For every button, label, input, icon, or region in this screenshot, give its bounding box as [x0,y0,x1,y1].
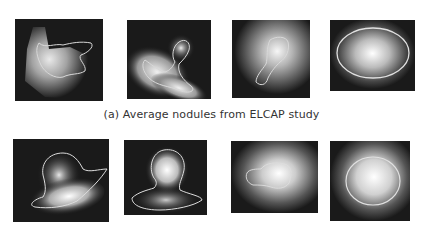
nodule-image-b3 [231,141,318,213]
nodule-image-a1 [15,19,103,101]
nodule-image-a3 [232,20,310,98]
nodule-b2-graphic [124,140,207,215]
nodule-image-a4 [330,20,415,91]
nodule-b1-graphic [13,139,109,222]
nodule-image-a2 [127,20,211,99]
nodule-a2-graphic [127,20,211,99]
nodule-image-b4 [330,141,410,221]
nodule-a1-graphic [15,19,103,101]
caption-a: (a) Average nodules from ELCAP study [0,108,423,121]
nodule-image-b2 [124,140,207,215]
nodule-b3-graphic [231,141,318,213]
nodule-b4-graphic [330,141,410,221]
nodule-a4-graphic [330,20,415,91]
nodule-a3-graphic [232,20,310,98]
nodule-image-b1 [13,139,109,222]
